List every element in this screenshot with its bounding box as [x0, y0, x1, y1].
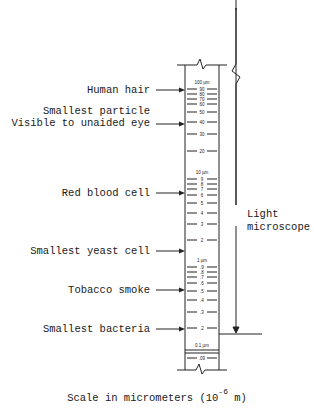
object-label: Smallest bacteria	[43, 323, 150, 335]
major-scale-label: 10 µm	[196, 170, 209, 175]
arrow-head-icon	[179, 88, 185, 93]
light-microscope-label: Light microscope	[247, 208, 310, 234]
scale-caption: Scale in micrometers (10-6 m)	[0, 389, 314, 404]
object-label-line: Smallest yeast cell	[30, 245, 150, 257]
major-scale-label: 0.1 µm	[195, 343, 209, 348]
tick-label: 6	[201, 193, 204, 198]
caption-prefix: Scale in micrometers (10	[67, 392, 218, 404]
size-scale-diagram: 908070605040302098765432.9.8.7.6.5.4.3.2…	[0, 0, 314, 415]
object-label-line: Human hair	[87, 84, 150, 96]
object-label: Smallest particleVisible to unaided eye	[11, 105, 150, 129]
tick-label: 2	[201, 238, 204, 243]
arrow-head-icon	[179, 191, 185, 196]
tick-label: 40	[199, 120, 205, 125]
object-label-line: Tobacco smoke	[68, 284, 150, 296]
tick-label: .3	[200, 310, 204, 315]
tick-label: 5	[201, 201, 204, 206]
arrow-head-icon	[179, 249, 185, 254]
tick-label: 4	[201, 211, 204, 216]
tick-label: .6	[200, 281, 204, 286]
tick-label: 20	[199, 149, 205, 154]
tick-label: 30	[199, 132, 205, 137]
arrow-head-icon	[179, 122, 185, 127]
object-label-line: Smallest bacteria	[43, 323, 150, 335]
caption-suffix: m)	[228, 392, 247, 404]
tick-label: .7	[200, 275, 204, 280]
tick-label: 60	[199, 102, 205, 107]
caption-exponent: -6	[218, 387, 228, 396]
tick-label: .2	[200, 326, 204, 331]
tick-label: 50	[199, 110, 205, 115]
range-label-line1: Light	[247, 208, 310, 221]
major-scale-label: 100 µm	[194, 80, 209, 85]
object-label-line: Visible to unaided eye	[11, 117, 150, 129]
tick-label: 3	[201, 222, 204, 227]
tick-label: 7	[201, 187, 204, 192]
object-label: Tobacco smoke	[68, 284, 150, 296]
object-label: Human hair	[87, 84, 150, 96]
arrow-head-icon	[179, 327, 185, 332]
range-label-line2: microscope	[247, 221, 310, 234]
object-label-line: Red blood cell	[62, 187, 150, 199]
tick-label: .09	[199, 356, 206, 361]
arrow-head-icon	[179, 288, 185, 293]
tick-label: .4	[200, 298, 204, 303]
object-label: Smallest yeast cell	[30, 245, 150, 257]
major-scale-label: 1 µm	[197, 258, 207, 263]
object-label: Red blood cell	[62, 187, 150, 199]
tick-label: .5	[200, 289, 204, 294]
object-label-line: Smallest particle	[11, 105, 150, 117]
